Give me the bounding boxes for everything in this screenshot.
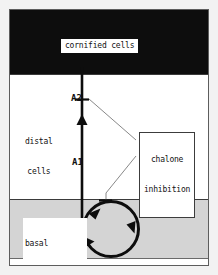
cell-cycle-arrowhead-right bbox=[127, 221, 136, 234]
migration-arrowhead-mid bbox=[77, 114, 88, 125]
callout-chalone-inhibition: chalone inhibition bbox=[139, 132, 195, 218]
label-distal-cells-line2: cells bbox=[25, 167, 53, 177]
label-distal-cells: distal cells bbox=[23, 116, 55, 198]
connector-lower-leader bbox=[106, 156, 136, 200]
cell-cycle-circle bbox=[84, 202, 139, 257]
label-basal-mitotic-cells: basal mitotic cells bbox=[23, 218, 87, 266]
label-distal-cells-line1: distal bbox=[25, 137, 53, 147]
diagram-frame: cornified cells distal cells basal mitot… bbox=[9, 9, 209, 266]
connector-upper-leader bbox=[89, 99, 136, 140]
callout-chalone-line2: inhibition bbox=[144, 185, 190, 195]
figure-canvas: cornified cells distal cells basal mitot… bbox=[0, 0, 218, 275]
callout-chalone-line1: chalone bbox=[144, 155, 190, 165]
label-basal-line1: basal bbox=[25, 239, 85, 249]
tier-label-a1: A1 bbox=[72, 157, 83, 167]
tier-label-a2: A2 bbox=[71, 93, 82, 103]
label-cornified-cells: cornified cells bbox=[61, 39, 138, 53]
